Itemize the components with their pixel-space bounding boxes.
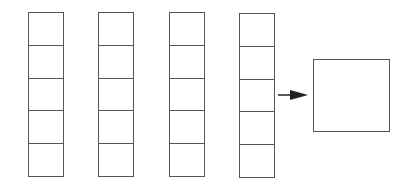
- stack-cell: [29, 79, 63, 112]
- output-box: [313, 59, 390, 132]
- stack-column-3: [169, 12, 205, 177]
- stack-cell: [29, 111, 63, 144]
- stack-cell: [240, 80, 274, 113]
- stack-cell: [240, 47, 274, 80]
- stack-column-2: [98, 12, 134, 177]
- stack-cell: [29, 46, 63, 79]
- stack-cell: [29, 144, 63, 176]
- stack-cell: [240, 14, 274, 47]
- stack-cell: [170, 79, 204, 112]
- stack-cell: [170, 13, 204, 46]
- stack-column-1: [28, 12, 64, 177]
- stack-cell: [170, 111, 204, 144]
- stack-cell: [99, 144, 133, 176]
- stack-cell: [29, 13, 63, 46]
- stack-cell: [170, 144, 204, 176]
- stack-cell: [240, 145, 274, 177]
- stack-cell: [170, 46, 204, 79]
- stack-cell: [99, 46, 133, 79]
- stack-column-4: [239, 13, 275, 178]
- right-arrow-icon: [276, 87, 312, 103]
- stack-cell: [99, 79, 133, 112]
- stack-cell: [99, 13, 133, 46]
- stack-cell: [240, 112, 274, 145]
- stack-cell: [99, 111, 133, 144]
